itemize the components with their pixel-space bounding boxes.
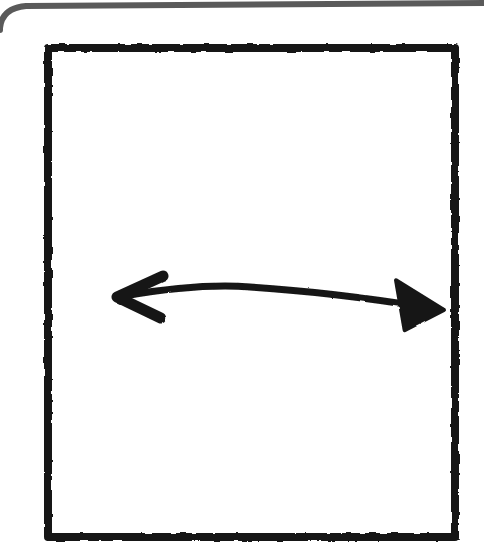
diagram-svg xyxy=(0,0,484,559)
figure-canvas: Hand-drawn symmetry diagram Scanned line… xyxy=(0,0,484,559)
page-background xyxy=(0,0,484,559)
